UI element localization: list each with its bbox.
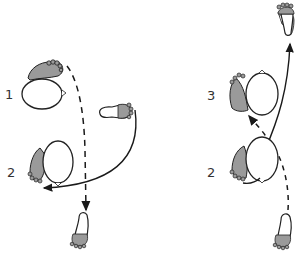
head-icon-pos3 <box>246 70 278 115</box>
position-label-2-right: 2 <box>207 166 215 179</box>
footprint-right <box>100 103 133 119</box>
position-label-3: 3 <box>207 89 215 102</box>
foot-icon-pos1 <box>28 60 63 80</box>
head-icon-pos2 <box>43 141 73 186</box>
footprint-top-right <box>277 3 294 35</box>
position-label-2: 2 <box>7 166 15 179</box>
step-diagram <box>0 0 301 263</box>
footprint-bottom-right <box>273 214 291 250</box>
foot-icon-pos3 <box>230 73 248 111</box>
dashed-arrow-down <box>67 66 86 210</box>
head-icon-pos1 <box>22 79 66 109</box>
foot-icon-pos2-right <box>230 146 247 181</box>
head-icon-pos2-right <box>246 137 278 183</box>
position-label-1: 1 <box>5 88 13 101</box>
footprint-bottom-left <box>70 213 88 249</box>
